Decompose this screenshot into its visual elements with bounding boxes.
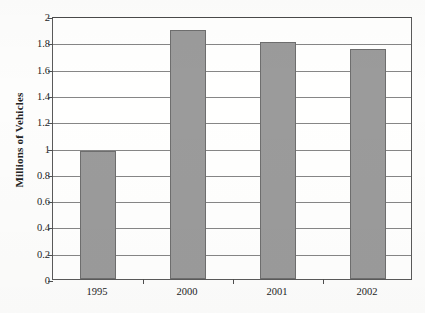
y-axis-title-text: Millions of Vehicles xyxy=(13,92,25,187)
y-axis-tick-label: 1.8 xyxy=(37,38,50,49)
y-axis-tick-mark xyxy=(48,281,53,282)
y-axis-tick-mark xyxy=(48,255,53,256)
y-axis-tick-mark xyxy=(48,228,53,229)
y-axis-tick-mark xyxy=(48,44,53,45)
y-axis-tick-mark xyxy=(48,71,53,72)
gridline xyxy=(53,44,411,45)
y-axis-tick-mark xyxy=(48,176,53,177)
y-axis-tick-label: 0.6 xyxy=(37,196,50,207)
y-axis-tick-mark xyxy=(48,18,53,19)
x-axis-label-2001: 2001 xyxy=(267,286,288,297)
x-axis-label-1995: 1995 xyxy=(87,286,108,297)
y-axis-tick-mark xyxy=(48,123,53,124)
x-axis-tick-mark xyxy=(143,279,144,284)
y-axis-tick-label: 0.4 xyxy=(37,222,50,233)
y-axis-tick-mark xyxy=(48,97,53,98)
x-axis-tick-mark xyxy=(233,279,234,284)
y-axis-tick-label: 0.2 xyxy=(37,248,50,259)
y-axis-tick-label: 1 xyxy=(45,143,50,154)
y-axis-tick-label: 1.4 xyxy=(37,90,50,101)
plot-area xyxy=(52,17,412,280)
y-axis-tick-label: 1.2 xyxy=(37,117,50,128)
x-axis-tick-mark xyxy=(323,279,324,284)
y-axis-tick-label: 0 xyxy=(45,275,50,286)
y-axis-tick-mark xyxy=(48,202,53,203)
bar-2001[interactable] xyxy=(260,42,296,279)
y-axis-tick-labels: 00.20.40.60.811.21.41.61.82 xyxy=(26,17,50,280)
x-axis-label-2000: 2000 xyxy=(177,286,198,297)
y-axis-tick-label: 1.6 xyxy=(37,64,50,75)
bar-chart: Millions of Vehicles 00.20.40.60.811.21.… xyxy=(0,0,425,313)
x-axis-category-labels: 1995200020012002 xyxy=(52,286,412,306)
bar-1995[interactable] xyxy=(80,151,116,279)
x-axis-label-2002: 2002 xyxy=(357,286,378,297)
y-axis-tick-mark xyxy=(48,150,53,151)
bar-2000[interactable] xyxy=(170,30,206,279)
bar-2002[interactable] xyxy=(350,49,386,279)
y-axis-tick-label: 0.8 xyxy=(37,169,50,180)
y-axis-tick-label: 2 xyxy=(45,12,50,23)
